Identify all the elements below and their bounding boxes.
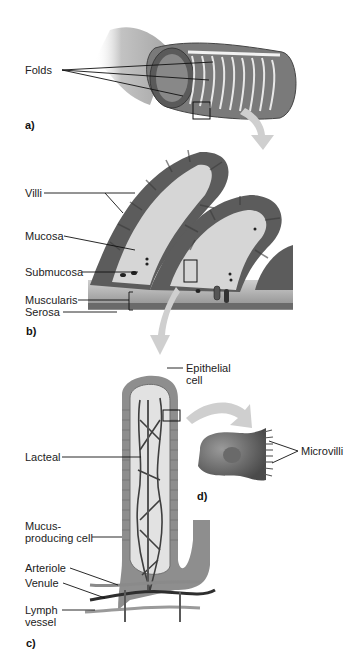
label-lymph-vessel-line2: vessel [25,616,56,628]
label-villi: Villi [25,187,42,199]
epithelial-cell [198,428,273,481]
villi-cross-section [88,150,293,310]
arrow-c-to-d [186,402,252,428]
panel-label-b: b) [26,325,36,337]
label-microvilli: Microvilli [301,445,343,457]
label-epithelial-cell-line1: Epithelial [186,362,231,374]
label-mucus-cell-line1: Mucus- [25,520,61,532]
label-epithelial-cell-line2: cell [186,374,203,386]
label-mucus-cell-line2: producing cell [25,532,93,544]
label-lacteal: Lacteal [25,451,60,463]
label-submucosa: Submucosa [25,266,83,278]
intestine-tube [95,27,296,119]
panel-label-a: a) [25,119,35,131]
label-venule: Venule [25,577,59,589]
panel-label-c: c) [26,637,36,649]
label-arteriole: Arteriole [25,562,66,574]
label-mucosa: Mucosa [25,230,64,242]
label-serosa: Serosa [25,306,60,318]
microvilli-leader-lines [269,441,298,463]
panel-label-d: d) [197,490,207,502]
label-folds: Folds [25,64,52,76]
label-lymph-vessel-line1: Lymph [25,604,58,616]
label-muscularis: Muscularis [25,294,78,306]
